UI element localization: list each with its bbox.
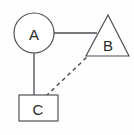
diagram-svg: A B C — [0, 0, 134, 135]
node-b[interactable]: B — [86, 15, 129, 56]
edge-c-to-b-dashed — [46, 57, 87, 96]
node-a[interactable]: A — [14, 13, 54, 53]
node-a-label: A — [29, 26, 39, 43]
node-c-label: C — [33, 101, 44, 118]
diagram-canvas: A B C — [0, 0, 134, 135]
node-c[interactable]: C — [19, 95, 58, 121]
node-b-label: B — [103, 37, 113, 54]
